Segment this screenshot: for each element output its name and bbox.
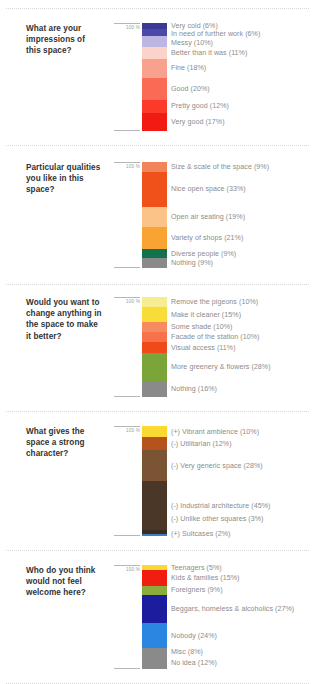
legend-item: More greenery & flowers (28%) <box>171 363 271 371</box>
y-axis: 100 % <box>106 162 142 268</box>
legend-item: Kids & families (15%) <box>171 574 239 582</box>
legend-item: Size & scale of the space (9%) <box>171 163 269 171</box>
legend-item: Visual access (11%) <box>171 344 236 352</box>
legend-item: Fine (18%) <box>171 64 206 72</box>
legend-item: Open air seating (19%) <box>171 213 245 221</box>
question-block: Who do you think would not feel welcome … <box>0 551 315 683</box>
legend-item: (+) Suitcases (2%) <box>171 530 230 538</box>
legend-item: Nobody (24%) <box>171 632 217 640</box>
bar-segment <box>142 307 167 322</box>
bar-segment <box>142 381 167 397</box>
bar-segment <box>142 297 167 307</box>
stacked-bar <box>142 426 167 536</box>
legend-item: Some shade (10%) <box>171 323 233 331</box>
bar-segment <box>142 59 167 78</box>
legend-item: Nothing (9%) <box>171 259 213 267</box>
bar-segment <box>142 332 167 342</box>
question-block: What are your impressions of this space?… <box>0 9 315 145</box>
stacked-bar <box>142 565 167 669</box>
bar-segment <box>142 656 167 668</box>
bar-segment <box>142 648 167 656</box>
bar-segment <box>142 113 167 131</box>
bar-segment <box>142 586 167 595</box>
question-text: Who do you think would not feel welcome … <box>0 565 106 599</box>
bar-segment <box>142 172 167 207</box>
legend-item: Nothing (16%) <box>171 385 217 393</box>
legend: (+) Vibrant ambience (10%)(-) Utilitaria… <box>171 426 315 536</box>
y-axis: 100 % <box>106 23 142 131</box>
legend-item: Very good (17%) <box>171 118 225 126</box>
bar-segment <box>142 36 167 47</box>
question-text: What gives the space a strong character? <box>0 426 106 460</box>
charts-container: What are your impressions of this space?… <box>0 9 315 684</box>
bar-segment <box>142 570 167 586</box>
axis-baseline <box>114 535 140 536</box>
question-text: Would you want to change anything in the… <box>0 297 106 342</box>
bar-segment <box>142 342 167 353</box>
legend-item: Very cold (6%) <box>171 22 218 30</box>
stacked-bar <box>142 162 167 268</box>
legend-item: Make it cleaner (15%) <box>171 311 241 319</box>
bar-segment <box>142 353 167 381</box>
legend-item: Nice open space (33%) <box>171 185 246 193</box>
legend-item: Facade of the station (10%) <box>171 333 260 341</box>
axis-max-label: 100 % <box>114 567 140 573</box>
bar-segment <box>142 481 167 531</box>
legend: Teenagers (5%)Kids & families (15%)Forei… <box>171 565 315 669</box>
axis-max-label: 100 % <box>114 299 140 305</box>
axis-top-tick: 100 % <box>114 23 140 31</box>
question-block: What gives the space a strong character?… <box>0 412 315 550</box>
legend-item: (-) Very generic space (28%) <box>171 462 263 470</box>
bar-segment <box>142 207 167 227</box>
bar-segment <box>142 322 167 332</box>
bar-segment <box>142 623 167 648</box>
survey-results-sheet: What are your impressions of this space?… <box>0 8 315 676</box>
bar-segment <box>142 426 167 437</box>
legend-item: Teenagers (5%) <box>171 564 222 572</box>
stacked-bar <box>142 297 167 397</box>
legend-item: Better than it was (11%) <box>171 49 247 57</box>
bar-segment <box>142 78 167 100</box>
bar-segment <box>142 249 167 259</box>
question-block: Would you want to change anything in the… <box>0 285 315 411</box>
bar-segment <box>142 595 167 623</box>
legend-item: Foreigners (9%) <box>171 586 223 594</box>
bar-segment <box>142 227 167 249</box>
legend-item: Remove the pigeons (10%) <box>171 298 258 306</box>
axis-top-tick: 100 % <box>114 297 140 305</box>
y-axis: 100 % <box>106 426 142 536</box>
legend: Very cold (6%)In need of further work (6… <box>171 23 315 131</box>
legend-item: No idea (12%) <box>171 659 217 667</box>
bar-segment <box>142 47 167 59</box>
axis-top-tick: 100 % <box>114 162 140 170</box>
legend-item: Variety of shops (21%) <box>171 234 243 242</box>
axis-baseline <box>114 130 140 131</box>
axis-top-tick: 100 % <box>114 565 140 573</box>
legend-item: Diverse people (9%) <box>171 250 236 258</box>
y-axis: 100 % <box>106 565 142 669</box>
question-text: Particular qualities you like in this sp… <box>0 162 106 196</box>
legend-item: (+) Vibrant ambience (10%) <box>171 428 259 436</box>
legend-item: Messy (10%) <box>171 39 213 47</box>
legend-item: In need of further work (6%) <box>171 30 260 38</box>
legend: Remove the pigeons (10%)Make it cleaner … <box>171 297 315 397</box>
bar-segment <box>142 258 167 268</box>
bar-segment <box>142 162 167 172</box>
legend-item: Misc (8%) <box>171 648 203 656</box>
axis-top-tick: 100 % <box>114 426 140 434</box>
legend-item: (-) Unlike other squares (3%) <box>171 515 264 523</box>
legend-item: Beggars, homeless & alcoholics (27%) <box>171 605 294 613</box>
axis-baseline <box>114 396 140 397</box>
y-axis: 100 % <box>106 297 142 397</box>
bar-segment <box>142 100 167 113</box>
bar-segment <box>142 534 167 536</box>
stacked-bar <box>142 23 167 131</box>
legend-item: (-) Industrial architecture (45%) <box>171 502 270 510</box>
axis-max-label: 100 % <box>114 164 140 170</box>
axis-max-label: 100 % <box>114 25 140 31</box>
legend-item: Pretty good (12%) <box>171 102 229 110</box>
legend: Size & scale of the space (9%)Nice open … <box>171 162 315 268</box>
question-block: Particular qualities you like in this sp… <box>0 146 315 284</box>
legend-item: (-) Utilitarian (12%) <box>171 440 232 448</box>
axis-baseline <box>114 267 140 268</box>
